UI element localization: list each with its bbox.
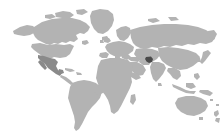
region-tasmania[interactable] (199, 117, 203, 120)
world-map-figure (0, 0, 224, 138)
world-map-canvas[interactable] (0, 0, 224, 138)
